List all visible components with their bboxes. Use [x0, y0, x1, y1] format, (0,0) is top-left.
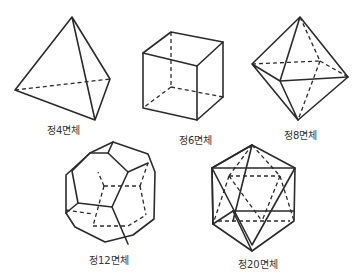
octahedron-label: 정8면체 [284, 127, 317, 142]
tetrahedron-label: 정4면체 [47, 122, 80, 137]
dodecahedron-figure [66, 142, 155, 244]
dodecahedron-label: 정12면체 [89, 252, 129, 267]
octahedron-figure [252, 17, 348, 120]
hexahedron-label: 정6면체 [179, 132, 212, 147]
platonic-solids-diagram: 정4면체 정6면체 정8면체 정12면체 정20면체 [0, 0, 360, 278]
cube-figure [143, 32, 223, 120]
icosahedron-label: 정20면체 [238, 256, 278, 271]
icosahedron-figure [212, 145, 295, 251]
tetrahedron-figure [15, 17, 110, 120]
